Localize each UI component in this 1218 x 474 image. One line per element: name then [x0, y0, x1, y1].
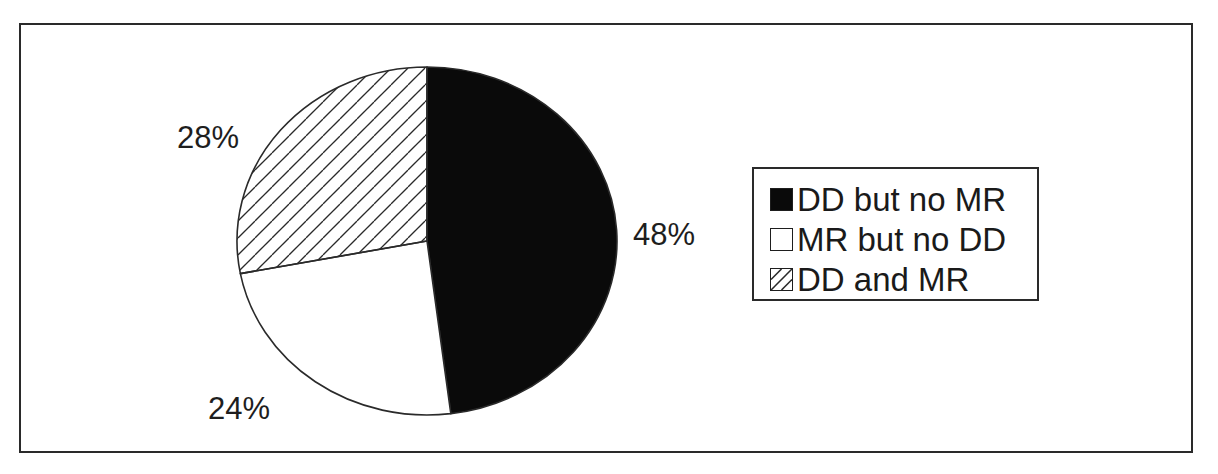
legend-item-dd-but-no-mr: DD but no MR	[770, 179, 1037, 219]
slice-label-dd-but-no-mr: 48%	[633, 219, 695, 250]
pie-slice-dd-and-mr	[237, 67, 427, 274]
legend-label: DD but no MR	[797, 183, 1006, 216]
slice-label-mr-but-no-dd: 24%	[208, 393, 270, 424]
hatch-swatch-icon	[770, 268, 793, 291]
legend-item-mr-but-no-dd: MR but no DD	[770, 219, 1037, 259]
white-swatch-icon	[770, 228, 793, 251]
pie-slice-dd-but-no-mr	[427, 67, 617, 414]
legend-item-dd-and-mr: DD and MR	[770, 259, 1037, 299]
legend-label: MR but no DD	[797, 223, 1006, 256]
slice-label-dd-and-mr: 28%	[177, 122, 239, 153]
legend: DD but no MR MR but no DD DD and MR	[752, 167, 1039, 301]
pie-slices	[237, 67, 617, 415]
solid-black-swatch-icon	[770, 188, 793, 211]
legend-label: DD and MR	[797, 263, 969, 296]
